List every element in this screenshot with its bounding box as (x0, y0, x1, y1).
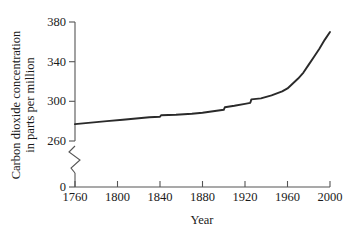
x-tick-label-1800: 1800 (105, 190, 130, 204)
co2-series-line (75, 32, 330, 124)
x-tick-label-2000: 2000 (318, 190, 343, 204)
x-tick-label-1880: 1880 (190, 190, 215, 204)
y-tick-marks (69, 22, 75, 187)
y-axis-title: Carbon dioxide concentration in parts pe… (9, 30, 37, 179)
y-tick-label-260: 260 (47, 134, 66, 148)
y-axis-title-line1: Carbon dioxide concentration (9, 30, 23, 179)
y-tick-label-340: 340 (47, 55, 66, 69)
x-tick-label-1960: 1960 (275, 190, 300, 204)
x-tick-label-1920: 1920 (233, 190, 258, 204)
y-axis-break-icon (69, 146, 80, 173)
y-tick-label-380: 380 (47, 15, 66, 29)
x-tick-marks (75, 181, 330, 187)
co2-line-chart: Carbon dioxide concentration in parts pe… (0, 0, 352, 232)
y-tick-label-300: 300 (47, 94, 66, 108)
x-tick-label-1760: 1760 (63, 190, 88, 204)
y-axis-title-line2: in parts per million (23, 57, 37, 153)
chart-canvas: Carbon dioxide concentration in parts pe… (0, 0, 352, 232)
x-axis-title: Year (190, 213, 214, 227)
x-tick-label-1840: 1840 (148, 190, 173, 204)
